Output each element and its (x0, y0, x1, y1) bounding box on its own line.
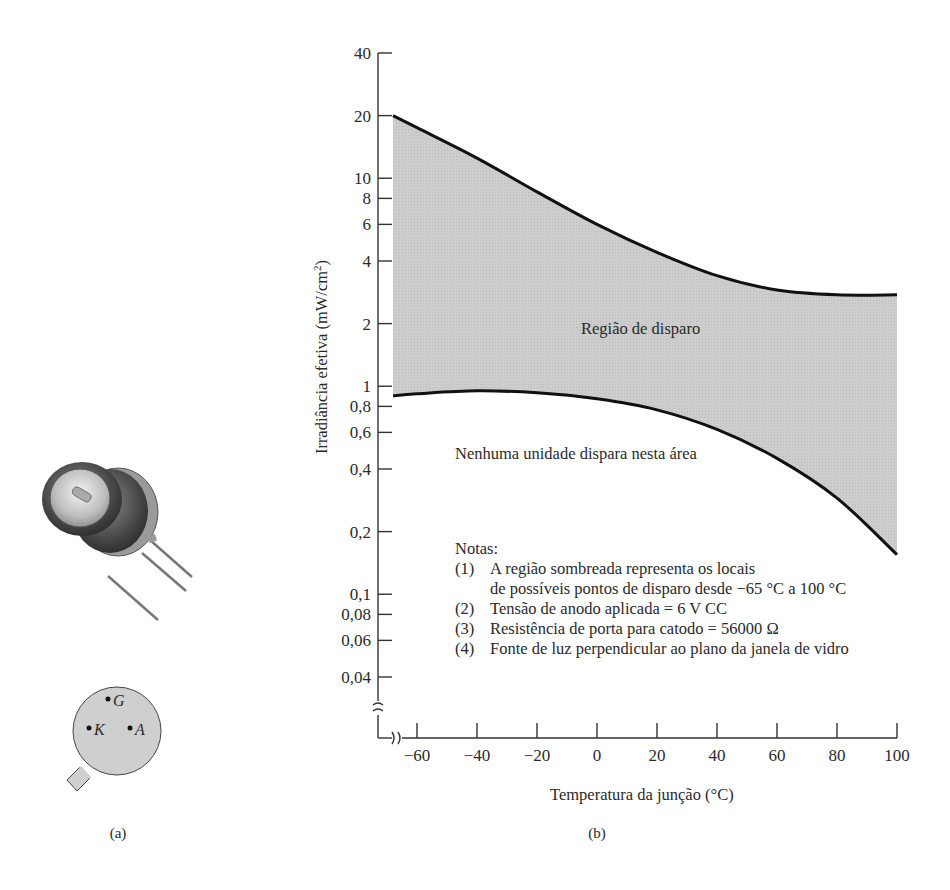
trigger-region-label: Região de disparo (581, 319, 700, 338)
x-tick-label: 40 (709, 746, 726, 765)
y-tick-label: 0,06 (341, 631, 371, 650)
lead-1 (150, 540, 192, 577)
y-axis-ticks: 402010864210,80,60,40,20,10,080,060,04 (341, 44, 392, 687)
note-2-num: (2) (455, 599, 474, 618)
pin-g-dot (106, 697, 111, 702)
note-3-text: Resistência de porta para catodo = 56000… (490, 619, 779, 638)
pin-g-label: G (113, 692, 125, 709)
notes-title: Notas: (455, 539, 498, 558)
pinout-diagram: G K A (67, 687, 161, 791)
x-tick-label: 0 (593, 746, 602, 765)
notes-block: Notas: (1) A região sombreada representa… (455, 539, 849, 658)
pinout-tab (67, 767, 90, 791)
y-tick-label: 0,04 (341, 668, 371, 687)
x-axis (378, 732, 897, 744)
note-1-line2: de possíveis pontos de disparo desde −65… (490, 579, 846, 598)
y-tick-label: 0,6 (350, 423, 371, 442)
y-tick-label: 10 (354, 169, 371, 188)
y-axis (373, 53, 383, 738)
x-tick-label: 100 (884, 746, 910, 765)
no-trigger-area-label: Nenhuma unidade dispara nesta área (455, 444, 698, 463)
note-2-text: Tensão de anodo aplicada = 6 V CC (490, 599, 727, 618)
y-axis-title: Irradiância efetiva (mW/cm2) (311, 260, 331, 454)
y-tick-label: 0,2 (350, 523, 371, 542)
x-tick-label: 80 (829, 746, 846, 765)
y-tick-label: 0,8 (350, 397, 371, 416)
x-tick-label: 20 (649, 746, 666, 765)
note-4-num: (4) (455, 639, 474, 658)
lead-2 (142, 553, 186, 591)
y-tick-label: 8 (363, 189, 372, 208)
x-axis-title: Temperatura da junção (°C) (550, 785, 734, 804)
device-illustration (42, 462, 192, 620)
x-tick-label: −40 (464, 746, 491, 765)
note-3-num: (3) (455, 619, 474, 638)
note-1-line1: A região sombreada representa os locais (490, 559, 755, 578)
y-tick-label: 20 (354, 107, 371, 126)
pin-a-dot (128, 726, 133, 731)
caption-a: (a) (110, 825, 127, 842)
y-tick-label: 6 (363, 215, 372, 234)
x-tick-label: −60 (404, 746, 431, 765)
y-tick-label: 0,08 (341, 605, 371, 624)
x-tick-label: 60 (769, 746, 786, 765)
y-tick-label: 1 (363, 377, 372, 396)
figure-canvas: G K A (a) 402010864210,80,60,40,20,10,08… (0, 0, 950, 890)
x-axis-ticks: −60−40−20020406080100 (404, 723, 910, 765)
y-tick-label: 4 (363, 252, 372, 271)
pin-a-label: A (134, 721, 145, 738)
note-4-text: Fonte de luz perpendicular ao plano da j… (490, 639, 849, 658)
y-tick-label: 0,4 (350, 460, 372, 479)
y-tick-label: 40 (354, 44, 371, 63)
y-tick-label: 0,1 (350, 585, 371, 604)
x-tick-label: −20 (524, 746, 551, 765)
y-tick-label: 2 (363, 315, 372, 334)
note-1-num: (1) (455, 559, 474, 578)
trigger-region-chart: 402010864210,80,60,40,20,10,080,060,04 −… (311, 44, 910, 804)
pin-k-dot (87, 726, 92, 731)
caption-b: (b) (588, 825, 606, 842)
pin-k-label: K (93, 721, 106, 738)
lead-3 (108, 576, 158, 620)
